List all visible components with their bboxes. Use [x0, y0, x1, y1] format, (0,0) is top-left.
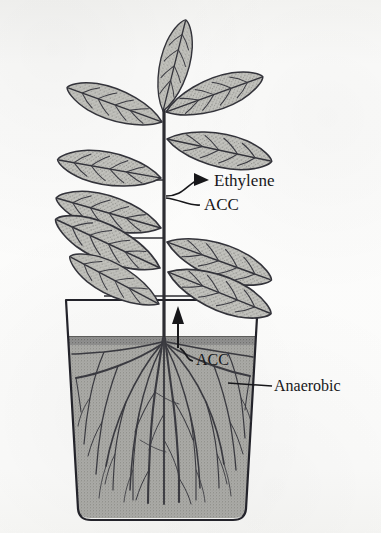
acc-shoot-leader: [166, 198, 200, 205]
pot-with-soil: [66, 300, 258, 520]
figure-container: Ethylene ACC ACC Anaerobic: [0, 0, 381, 533]
leaf-upper-left: [62, 73, 168, 137]
label-acc-root: ACC: [196, 352, 229, 368]
ethylene-arrow: [166, 173, 209, 196]
leaf-mid-left: [55, 144, 164, 195]
leaf-mid-right: [164, 123, 276, 178]
label-anaerobic: Anaerobic: [274, 378, 341, 394]
label-acc-shoot: ACC: [204, 196, 239, 213]
label-ethylene: Ethylene: [214, 172, 274, 189]
plant-illustration: [0, 0, 381, 533]
